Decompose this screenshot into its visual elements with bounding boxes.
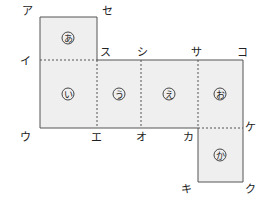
vertex-label-sa: サ <box>191 46 202 59</box>
face-label-o: お <box>214 88 226 100</box>
svg-text:お: お <box>216 90 225 100</box>
svg-text:か: か <box>216 151 225 161</box>
vertex-label-su: ス <box>100 46 111 59</box>
face-label-a: あ <box>62 32 74 44</box>
vertex-label-ke: ケ <box>245 121 256 134</box>
vertex-label-ko: コ <box>237 46 248 59</box>
svg-text:あ: あ <box>64 34 73 44</box>
vertex-label-se: セ <box>102 5 113 18</box>
vertex-label-u: ウ <box>20 131 31 144</box>
vertex-label-ki: キ <box>181 183 192 196</box>
vertex-label-i: イ <box>20 55 31 68</box>
vertex-label-ka: カ <box>183 131 194 144</box>
cube-net-diagram: あ い う え お か ア セ イ ス シ サ コ ウ エ オ カ ケ キ ク <box>0 0 272 209</box>
vertex-label-e: エ <box>91 131 102 144</box>
face-label-ka: か <box>214 149 226 161</box>
svg-text:う: う <box>115 90 124 100</box>
face-label-u: う <box>113 88 125 100</box>
vertex-label-shi: シ <box>137 46 148 59</box>
face-label-e: え <box>163 88 175 100</box>
svg-text:い: い <box>64 90 73 100</box>
face-label-i: い <box>62 88 74 100</box>
vertex-label-a: ア <box>22 5 33 18</box>
vertex-label-o: オ <box>136 131 147 144</box>
vertex-label-ku: ク <box>245 183 256 196</box>
svg-text:え: え <box>165 90 174 100</box>
